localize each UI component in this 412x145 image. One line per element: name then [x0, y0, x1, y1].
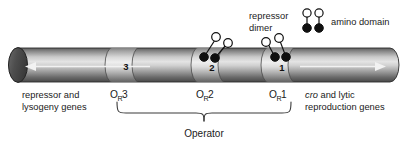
- or2-amino-circle-left: [212, 33, 221, 42]
- or1-amino-circle-left: [262, 38, 271, 47]
- legend-amino-domain-label: amino domain: [331, 17, 389, 27]
- legend: repressor dimer amino domain: [249, 9, 389, 33]
- site-numeral-2: 2: [209, 62, 214, 73]
- legend-carboxyl-circle-right: [315, 24, 324, 33]
- site-label-or1: O R 1: [269, 89, 287, 103]
- right-gene-label-line1: cro and lytic: [305, 90, 355, 100]
- right-gene-label-line2: reproduction genes: [305, 102, 385, 112]
- operator-bracket-label: Operator: [184, 128, 224, 139]
- figure-lambda-operator: repressor dimer amino domain: [0, 0, 412, 145]
- operator-bracket: [117, 102, 291, 121]
- legend-repressor-label-line2: dimer: [249, 23, 272, 33]
- site-label-or1-num: 1: [281, 89, 287, 100]
- or2-carboxyl-circle-right: [211, 54, 220, 63]
- site-numeral-3: 3: [123, 61, 128, 72]
- left-gene-label-line2: lysogeny genes: [22, 102, 87, 112]
- right-gene-label-rest: and lytic: [318, 90, 355, 100]
- dna-left-end-cap: [9, 48, 28, 83]
- right-gene-label-italic: cro: [305, 90, 318, 100]
- or1-carboxyl-circle-left: [271, 53, 280, 62]
- site-label-or2-num: 2: [208, 89, 214, 100]
- site-numeral-1: 1: [279, 62, 285, 73]
- legend-dimer-glyph: [303, 9, 324, 32]
- legend-amino-circle-right: [315, 9, 323, 17]
- legend-carboxyl-circle-left: [303, 24, 312, 33]
- or1-carboxyl-circle-right: [282, 53, 291, 62]
- legend-amino-circle-left: [303, 9, 311, 17]
- or2-amino-circle-right: [224, 39, 233, 48]
- operator-site-labels: O R 3 O R 2 O R 1: [110, 89, 287, 103]
- site-label-or2: O R 2: [196, 89, 214, 103]
- legend-repressor-label-line1: repressor: [249, 11, 288, 21]
- left-gene-label-line1: repressor and: [22, 90, 79, 100]
- or1-amino-circle-right: [275, 34, 284, 43]
- site-label-or3: O R 3: [110, 89, 128, 103]
- or2-carboxyl-circle-left: [200, 53, 209, 62]
- site-label-or3-num: 3: [122, 89, 128, 100]
